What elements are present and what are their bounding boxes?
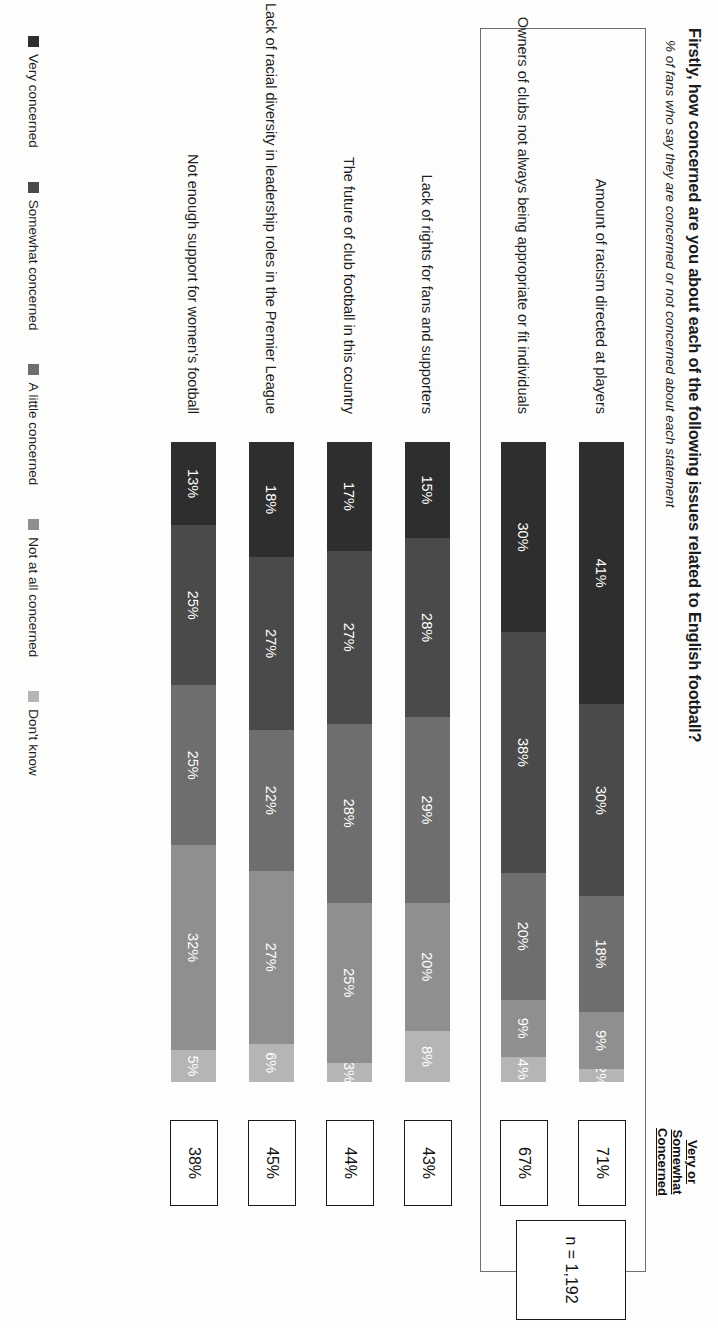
chart-row: Lack of racial diversity in leadership r… — [240, 28, 302, 1272]
row-category-label: The future of club football in this coun… — [318, 28, 380, 428]
net-concerned-value: 71% — [578, 1120, 626, 1206]
net-concerned-value: 67% — [500, 1120, 548, 1206]
bar-segment: 29% — [405, 717, 450, 903]
legend-label: Somewhat concerned — [26, 200, 41, 331]
bar-segment: 15% — [405, 442, 450, 538]
legend-item[interactable]: Very concerned — [26, 36, 41, 148]
bar-segment: 5% — [171, 1050, 216, 1082]
row-category-label: Lack of racial diversity in leadership r… — [240, 28, 302, 428]
stacked-bar: 18%27%22%27%6% — [249, 442, 294, 1082]
bar-segment: 13% — [171, 442, 216, 525]
legend-swatch-icon — [28, 182, 39, 193]
bar-segment: 41% — [579, 442, 624, 704]
bar-segment: 6% — [249, 1044, 294, 1082]
legend-swatch-icon — [28, 364, 39, 375]
net-header-line-3: Concerned — [655, 1114, 670, 1210]
bar-segment: 3% — [327, 1063, 372, 1082]
bar-segment: 18% — [249, 442, 294, 557]
bar-segment: 8% — [405, 1031, 450, 1082]
chart-row: Not enough support for women's football1… — [162, 28, 224, 1272]
net-header-line-2: Somewhat — [670, 1114, 685, 1210]
legend-item[interactable]: Don't know — [26, 691, 41, 775]
legend-item[interactable]: Somewhat concerned — [26, 182, 41, 331]
page-title: Firstly, how concerned are you about eac… — [685, 28, 704, 742]
legend-label: Don't know — [26, 709, 41, 775]
bar-segment: 4% — [501, 1057, 546, 1082]
bar-segment: 27% — [327, 551, 372, 724]
row-category-label: Owners of clubs not always being appropr… — [492, 28, 554, 428]
bar-segment: 25% — [171, 525, 216, 685]
legend-label: A little concerned — [26, 382, 41, 485]
net-concerned-value: 45% — [248, 1120, 296, 1206]
bar-segment: 30% — [501, 442, 546, 632]
net-concerned-value: 44% — [326, 1120, 374, 1206]
chart-row: Lack of rights for fans and supporters15… — [396, 28, 458, 1272]
rotated-slide-stage: Firstly, how concerned are you about eac… — [0, 0, 718, 1328]
bar-segment: 20% — [405, 903, 450, 1031]
bar-segment: 32% — [171, 845, 216, 1050]
stacked-bar: 15%28%29%20%8% — [405, 442, 450, 1082]
net-header-line-1: Very or — [685, 1114, 700, 1210]
row-category-label: Lack of rights for fans and supporters — [396, 28, 458, 428]
bar-segment: 28% — [327, 724, 372, 903]
chart-plot-area: Very or Somewhat Concerned n = 1,192 Amo… — [86, 28, 646, 1238]
legend-label: Very concerned — [26, 54, 41, 148]
bar-segment: 2% — [579, 1069, 624, 1082]
stacked-bar: 41%30%18%9%2% — [579, 442, 624, 1082]
bar-segment: 27% — [249, 871, 294, 1044]
chart-row: The future of club football in this coun… — [318, 28, 380, 1272]
stacked-bar: 17%27%28%25%3% — [327, 442, 372, 1082]
net-column-header: Very or Somewhat Concerned — [655, 1114, 700, 1210]
legend-swatch-icon — [28, 519, 39, 530]
bar-segment: 25% — [327, 903, 372, 1063]
bar-segment: 25% — [171, 685, 216, 845]
bar-segment: 18% — [579, 896, 624, 1011]
net-concerned-value: 38% — [170, 1120, 218, 1206]
row-category-label: Not enough support for women's football — [162, 28, 224, 428]
page-subtitle: % of fans who say they are concerned or … — [663, 40, 678, 508]
row-category-label: Amount of racism directed at players — [570, 28, 632, 428]
bar-segment: 9% — [579, 1012, 624, 1070]
bar-segment: 20% — [501, 873, 546, 1000]
legend-swatch-icon — [28, 691, 39, 702]
stacked-bar: 13%25%25%32%5% — [171, 442, 216, 1082]
bar-segment: 38% — [501, 632, 546, 873]
legend-swatch-icon — [28, 36, 39, 47]
stacked-bar: 30%38%20%9%4% — [501, 442, 546, 1082]
bar-segment: 30% — [579, 704, 624, 896]
chart-slide: Firstly, how concerned are you about eac… — [0, 0, 718, 1328]
bar-segment: 28% — [405, 538, 450, 717]
bar-segment: 22% — [249, 730, 294, 871]
legend-label: Not at all concerned — [26, 537, 41, 657]
chart-row: Owners of clubs not always being appropr… — [492, 28, 554, 1272]
bar-segment: 27% — [249, 557, 294, 730]
legend-item[interactable]: A little concerned — [26, 364, 41, 485]
chart-legend: Very concernedSomewhat concernedA little… — [26, 36, 41, 776]
bar-segment: 17% — [327, 442, 372, 551]
legend-item[interactable]: Not at all concerned — [26, 519, 41, 657]
bar-segment: 9% — [501, 1000, 546, 1057]
chart-row: Amount of racism directed at players41%3… — [570, 28, 632, 1272]
net-concerned-value: 43% — [404, 1120, 452, 1206]
